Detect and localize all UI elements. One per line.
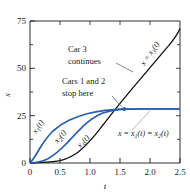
- curve-label-x1-group: x1(t): [30, 118, 47, 136]
- ytick-label-0: 0: [22, 158, 27, 168]
- xtick-label-2.5: 2.5: [174, 167, 186, 177]
- xtick-label-1.5: 1.5: [114, 167, 126, 177]
- curve-label-x1: x1(t): [30, 118, 47, 136]
- annotation-cars12-line1: Cars 1 and 2: [62, 76, 105, 86]
- xtick-label-0.5: 0.5: [54, 167, 66, 177]
- stop-point-marker: [122, 107, 126, 111]
- annotation-cars12-line2: stop here: [62, 88, 93, 98]
- xtick-label-0: 0: [28, 167, 33, 177]
- leader-line-cars12: [112, 96, 122, 107]
- xtick-label-2.0: 2.0: [144, 167, 156, 177]
- xtick-label-1.0: 1.0: [84, 167, 96, 177]
- equation-x3: x = x3(t): [138, 40, 162, 69]
- axis-frame: [30, 21, 180, 163]
- leader-line-x1x2: [132, 111, 150, 130]
- plot-area: 0 25 50 75 0 0.5 1.0 1.5 2.0 2.5 t x Car…: [0, 0, 190, 196]
- y-axis-minor-ticks: [30, 45, 33, 140]
- equation-x3-group: x = x3(t): [138, 40, 162, 69]
- ytick-label-50: 50: [17, 63, 27, 73]
- ytick-label-25: 25: [17, 111, 27, 121]
- annotation-car3-line2: continues: [68, 56, 102, 66]
- y-axis-right-ticks: [176, 45, 180, 140]
- x-axis-top-ticks: [60, 21, 150, 25]
- chart-figure: 0 25 50 75 0 0.5 1.0 1.5 2.0 2.5 t x Car…: [0, 0, 190, 196]
- annotation-car3-line1: Car 3: [68, 44, 87, 54]
- x-axis-title: t: [104, 181, 107, 191]
- ytick-label-75: 75: [17, 16, 27, 26]
- equation-x1-x2: x = x1(t) = x2(t): [117, 129, 169, 139]
- leader-line-car3: [116, 63, 133, 72]
- y-axis-title: x: [2, 93, 12, 98]
